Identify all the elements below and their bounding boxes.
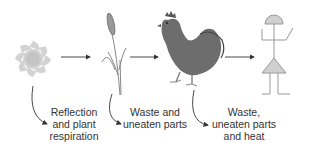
sun-icon	[15, 41, 51, 77]
loss-label-plant-line1: Waste and	[122, 106, 188, 118]
loss-label-chicken-line2: uneaten parts	[210, 118, 278, 130]
loss-label-sun-line2: and plant	[48, 118, 100, 130]
loss-arrow-plant	[109, 94, 121, 124]
plant-icon	[102, 13, 126, 95]
loss-label-sun: Reflection and plant respiration	[48, 106, 100, 142]
loss-label-plant: Waste and uneaten parts	[122, 106, 188, 130]
loss-label-sun-line3: respiration	[48, 130, 100, 142]
chicken-icon	[157, 11, 224, 86]
human-icon	[262, 15, 293, 94]
loss-label-plant-line2: uneaten parts	[122, 118, 188, 130]
loss-arrow-sun	[32, 86, 47, 124]
loss-label-sun-line1: Reflection	[48, 106, 100, 118]
loss-label-chicken-line1: Waste,	[210, 106, 278, 118]
loss-arrow-chicken	[193, 90, 208, 125]
loss-label-chicken-line3: and heat	[210, 130, 278, 142]
loss-label-chicken: Waste, uneaten parts and heat	[210, 106, 278, 142]
food-chain-diagram: Reflection and plant respiration Waste a…	[0, 0, 314, 154]
